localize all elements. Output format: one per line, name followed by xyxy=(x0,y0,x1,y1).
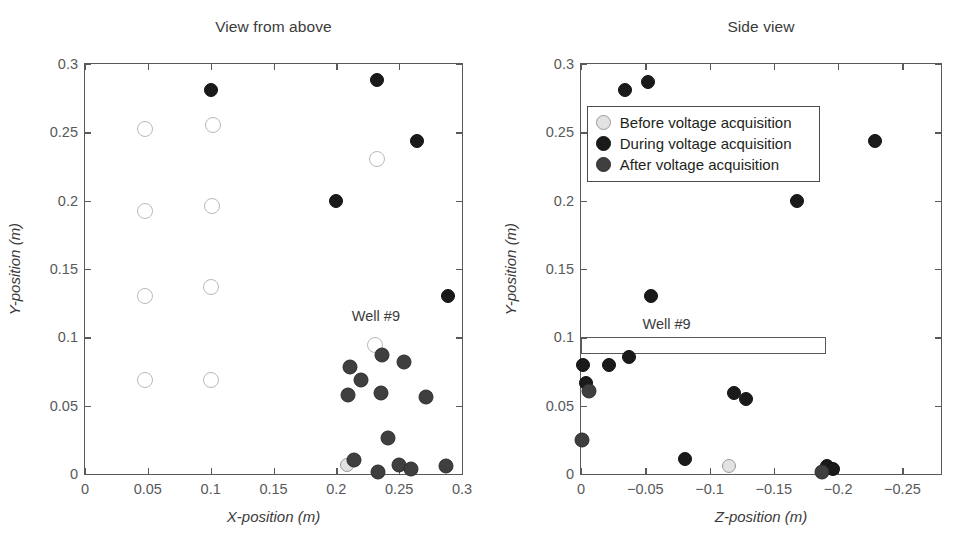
x-tick-top-0-2 xyxy=(211,64,212,70)
x-tick-top-0-0 xyxy=(85,64,86,70)
annotation-label-1-0: Well #9 xyxy=(642,316,690,332)
data-point xyxy=(815,464,830,479)
data-point xyxy=(342,359,357,374)
y-tick-0-4 xyxy=(85,201,91,202)
data-point xyxy=(137,288,153,304)
x-axis-title-left-text: X-position (m) xyxy=(227,508,320,525)
x-tick-1-2 xyxy=(710,468,711,474)
y-tick-1-0 xyxy=(581,474,587,475)
data-point xyxy=(618,83,632,97)
y-tick-right-0-4 xyxy=(456,201,462,202)
y-tick-right-0-3 xyxy=(456,269,462,270)
plot-area-view-from-above: X-position (m) Y-position (m) 00.050.10.… xyxy=(84,63,463,475)
x-tick-0-2 xyxy=(211,468,212,474)
x-tick-top-1-4 xyxy=(838,64,839,70)
x-tick-0-3 xyxy=(274,468,275,474)
x-ticklabel-0-5: 0.25 xyxy=(385,481,413,497)
x-tick-1-3 xyxy=(774,468,775,474)
y-tick-right-1-6 xyxy=(935,64,941,65)
legend-item-label: During voltage acquisition xyxy=(620,136,792,151)
data-point xyxy=(346,452,361,467)
data-point xyxy=(644,289,658,303)
data-point xyxy=(678,452,692,466)
data-point xyxy=(374,348,389,363)
y-tick-right-1-3 xyxy=(935,269,941,270)
x-tick-1-5 xyxy=(902,468,903,474)
x-tick-top-0-3 xyxy=(274,64,275,70)
data-point xyxy=(205,117,221,133)
y-tick-1-5 xyxy=(581,132,587,133)
data-point xyxy=(441,289,455,303)
data-point xyxy=(722,459,736,473)
y-ticklabel-0-0: 0 xyxy=(70,466,78,482)
x-tick-top-1-1 xyxy=(645,64,646,70)
legend-item-label: After voltage acquisition xyxy=(620,157,779,172)
y-tick-1-3 xyxy=(581,269,587,270)
data-point xyxy=(203,279,219,295)
plot-area-side-view: Z-position (m) Y-position (m) Before vol… xyxy=(580,63,942,475)
data-point xyxy=(404,462,419,477)
y-tick-1-4 xyxy=(581,201,587,202)
x-ticklabel-1-1: −0.05 xyxy=(627,481,664,497)
x-tick-1-0 xyxy=(581,468,582,474)
x-ticklabel-0-3: 0.15 xyxy=(259,481,287,497)
well-9-outline xyxy=(581,337,826,353)
x-tick-0-1 xyxy=(148,468,149,474)
y-ticklabel-0-4: 0.2 xyxy=(58,193,78,209)
y-ticklabel-1-2: 0.1 xyxy=(554,329,574,345)
data-point xyxy=(790,194,804,208)
y-tick-1-1 xyxy=(581,406,587,407)
data-point xyxy=(575,432,590,447)
x-tick-top-0-6 xyxy=(462,64,463,70)
x-axis-title-left: X-position (m) xyxy=(227,508,320,525)
data-point xyxy=(419,390,434,405)
x-tick-1-1 xyxy=(645,468,646,474)
data-point xyxy=(204,198,220,214)
y-ticklabel-1-5: 0.25 xyxy=(546,124,574,140)
x-tick-top-1-5 xyxy=(902,64,903,70)
y-ticklabel-0-1: 0.05 xyxy=(50,398,78,414)
y-ticklabel-0-3: 0.15 xyxy=(50,261,78,277)
y-tick-0-1 xyxy=(85,406,91,407)
y-tick-right-1-2 xyxy=(935,337,941,338)
data-point xyxy=(371,464,386,479)
data-point xyxy=(739,392,753,406)
data-point xyxy=(381,431,396,446)
data-point xyxy=(373,385,388,400)
x-tick-top-1-2 xyxy=(710,64,711,70)
during-circle-icon xyxy=(596,136,611,151)
x-ticklabel-1-3: −0.15 xyxy=(755,481,792,497)
figure-root: View from above X-position (m) Y-positio… xyxy=(0,0,961,546)
y-tick-right-0-0 xyxy=(456,474,462,475)
x-ticklabel-0-6: 0.3 xyxy=(452,481,472,497)
data-point xyxy=(581,383,596,398)
data-point xyxy=(329,194,343,208)
legend-item: Before voltage acquisition xyxy=(596,112,810,133)
data-point xyxy=(576,358,590,372)
panel-view-from-above: View from above X-position (m) Y-positio… xyxy=(0,0,480,546)
legend-item-label: Before voltage acquisition xyxy=(620,115,792,130)
x-tick-0-0 xyxy=(85,468,86,474)
y-ticklabel-0-2: 0.1 xyxy=(58,329,78,345)
y-tick-0-0 xyxy=(85,474,91,475)
data-point xyxy=(137,121,153,137)
x-tick-0-6 xyxy=(462,468,463,474)
data-point xyxy=(396,354,411,369)
panel-side-view: Side view Z-position (m) Y-position (m) … xyxy=(481,0,961,546)
data-point xyxy=(370,73,384,87)
y-tick-right-1-0 xyxy=(935,474,941,475)
data-point xyxy=(341,388,356,403)
x-axis-title-right-text: Z-position (m) xyxy=(715,508,808,525)
x-tick-top-1-3 xyxy=(774,64,775,70)
y-ticklabel-0-6: 0.3 xyxy=(58,56,78,72)
data-point xyxy=(137,372,153,388)
y-tick-0-2 xyxy=(85,337,91,338)
data-point xyxy=(602,358,616,372)
data-point xyxy=(410,134,424,148)
panel-title-side-view: Side view xyxy=(580,18,942,36)
data-point xyxy=(203,372,219,388)
y-tick-right-0-5 xyxy=(456,132,462,133)
x-ticklabel-0-0: 0 xyxy=(81,481,89,497)
data-point xyxy=(137,203,153,219)
data-point xyxy=(641,75,655,89)
